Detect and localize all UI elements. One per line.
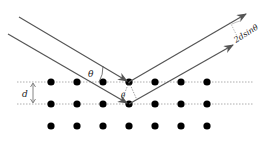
lattice-atom [203,100,210,107]
lattice-atom [47,78,54,85]
path-difference-label: 2dsinθ [231,23,260,45]
lattice-atom [151,122,158,129]
lattice-atom [151,78,158,85]
theta-label: θ [88,69,94,79]
theta-prime-label: θ [121,92,126,100]
reflected-rays [129,14,246,104]
lattice-atom [73,100,80,107]
bragg-diffraction-diagram: d θ θ 2dsinθ [0,0,266,145]
lattice-atom [73,78,80,85]
lattice-atom [203,78,210,85]
reflected-ray-lower [129,45,233,104]
d-spacing-indicator: d [22,83,36,103]
lattice-atom [151,100,158,107]
lattice-atom [73,122,80,129]
lattice-atom [47,122,54,129]
lattice-atom [99,100,106,107]
d-label: d [22,89,28,99]
lattice-atom [47,100,54,107]
lattice-atom [177,122,184,129]
lattice-atom [125,122,132,129]
lattice-atom [177,100,184,107]
lattice-atom [203,122,210,129]
path-difference-construction: θ [121,21,240,100]
lattice-atom [177,78,184,85]
lattice-atom [99,122,106,129]
